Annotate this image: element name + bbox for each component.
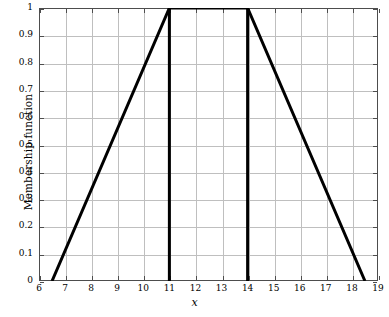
y-tick-label: 0.3 <box>0 193 33 203</box>
membership-function-curve <box>39 8 378 281</box>
y-axis-title: Membership function <box>22 72 34 232</box>
y-tick-label: 0.1 <box>0 248 33 258</box>
y-tick-label: 0.5 <box>0 139 33 149</box>
y-tick-label: 0 <box>0 275 33 285</box>
y-tick-label: 0.7 <box>0 84 33 94</box>
y-tick-label: 0.6 <box>0 111 33 121</box>
y-tick-label: 0.4 <box>0 166 33 176</box>
x-axis-tick <box>379 9 380 13</box>
data-layer <box>39 8 378 281</box>
x-axis-tick <box>379 276 380 280</box>
x-axis-title: x <box>0 296 389 309</box>
membership-function-chart: Membership function x 678910111213141516… <box>0 0 389 317</box>
y-tick-label: 0.9 <box>0 29 33 39</box>
y-tick-label: 0.2 <box>0 220 33 230</box>
x-tick-label: 19 <box>363 283 389 293</box>
y-tick-label: 0.8 <box>0 57 33 67</box>
y-tick-label: 1 <box>0 2 33 12</box>
series-line <box>52 8 365 281</box>
